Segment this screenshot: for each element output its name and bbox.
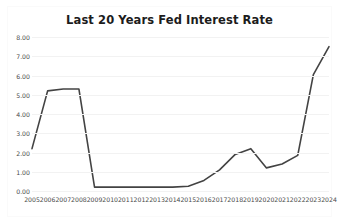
y-tick-label: 2.00: [4, 149, 30, 156]
x-tick-label: 2012: [134, 196, 150, 203]
gridline-y: [32, 133, 329, 134]
y-tick-label: 5.00: [4, 91, 30, 98]
gridline-y: [32, 95, 329, 96]
x-tick-label: 2024: [321, 196, 337, 203]
x-tick-label: 2021: [274, 196, 290, 203]
y-tick-label: 4.00: [4, 111, 30, 118]
x-tick-label: 2015: [180, 196, 196, 203]
y-tick-label: 0.00: [4, 188, 30, 195]
x-axis: 2005200620072008200920102011201220132014…: [32, 196, 329, 210]
x-tick-label: 2018: [227, 196, 243, 203]
chart-card: Last 20 Years Fed Interest Rate 0.001.00…: [0, 0, 339, 223]
x-tick-label: 2011: [118, 196, 134, 203]
x-tick-label: 2010: [102, 196, 118, 203]
gridline-y: [32, 76, 329, 77]
x-tick-label: 2006: [40, 196, 56, 203]
y-axis: 0.001.002.003.004.005.006.007.008.00: [0, 37, 30, 191]
y-tick-label: 7.00: [4, 53, 30, 60]
plot-area: [32, 37, 329, 191]
x-tick-label: 2009: [87, 196, 103, 203]
gridline-y: [32, 114, 329, 115]
gridline-y: [32, 56, 329, 57]
gridline-y: [32, 172, 329, 173]
y-tick-label: 1.00: [4, 168, 30, 175]
gridline-y: [32, 191, 329, 192]
gridline-y: [32, 37, 329, 38]
gridline-y: [32, 153, 329, 154]
chart-title: Last 20 Years Fed Interest Rate: [0, 13, 339, 27]
series-polyline: [32, 47, 329, 188]
x-tick-label: 2020: [259, 196, 275, 203]
x-tick-label: 2019: [243, 196, 259, 203]
x-tick-label: 2023: [305, 196, 321, 203]
x-tick-label: 2014: [165, 196, 181, 203]
y-tick-label: 3.00: [4, 130, 30, 137]
y-tick-label: 6.00: [4, 72, 30, 79]
x-tick-label: 2007: [55, 196, 71, 203]
x-tick-label: 2008: [71, 196, 87, 203]
x-tick-label: 2017: [212, 196, 228, 203]
x-tick-label: 2022: [290, 196, 306, 203]
x-tick-label: 2013: [149, 196, 165, 203]
x-tick-label: 2005: [24, 196, 40, 203]
x-tick-label: 2016: [196, 196, 212, 203]
y-tick-label: 8.00: [4, 34, 30, 41]
